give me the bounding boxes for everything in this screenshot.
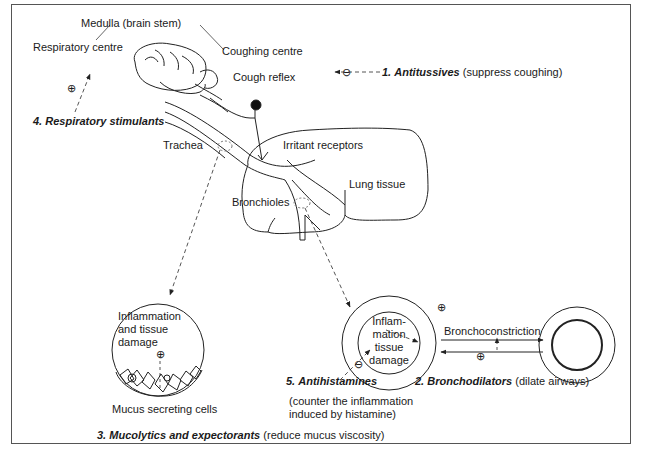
bronchioles-label: Bronchioles	[232, 196, 289, 209]
drug-number: 5.	[286, 375, 295, 387]
drug-respiratory-stimulants: 4. Respiratory stimulants	[33, 115, 164, 128]
irritant-receptors-label: Irritant receptors	[283, 139, 363, 152]
plus-sign-stimulants: ⊕	[67, 82, 76, 95]
drug-antitussives: 1. Antitussives (suppress coughing)	[382, 66, 562, 79]
drug-name: Respiratory stimulants	[45, 115, 164, 127]
drug-name: Antitussives	[394, 66, 459, 78]
drug-bronchodilators: 2. Bronchodilators (dilate airways)	[415, 375, 589, 388]
medulla-label: Medulla (brain stem)	[81, 17, 181, 30]
drug-number: 1.	[382, 66, 391, 78]
antihistamines-effect-line2: induced by histamine)	[289, 408, 396, 421]
minus-sign-antitussives: ⊖	[342, 66, 351, 79]
drug-antihistamines: 5. Antihistamines	[286, 375, 377, 388]
cough-reflex-label: Cough reflex	[233, 71, 295, 84]
dilated-airway-circle	[539, 307, 615, 383]
drug-number: 4.	[33, 115, 42, 127]
inflammation-right-line3: tissue	[367, 341, 411, 354]
drug-effect: (reduce mucus viscosity)	[263, 429, 384, 441]
drug-name: Antihistamines	[298, 375, 377, 387]
trachea-icon	[165, 102, 345, 240]
drug-effect: (suppress coughing)	[463, 66, 563, 78]
nerve-ending-icon	[251, 100, 261, 110]
cough-reflex-nerve	[210, 98, 268, 160]
minus-sign-antihistamines: ⊖	[354, 358, 363, 371]
respiratory-centre-label: Respiratory centre	[33, 41, 123, 54]
antihistamines-effect-line1: (counter the inflammation	[289, 395, 413, 408]
drug-mucolytics: 3. Mucolytics and expectorants (reduce m…	[97, 429, 384, 442]
plus-sign-bronchodilators: ⊕	[476, 350, 485, 363]
mucus-cells-label: Mucus secreting cells	[112, 403, 217, 416]
inflammation-left-line1: Inflammation	[118, 310, 181, 323]
inflammation-left-line2: and tissue	[118, 323, 168, 336]
plus-sign-mucus: ⊕	[156, 348, 165, 361]
inflammation-right-line1: Inflam-	[367, 315, 411, 328]
drug-effect: (dilate airways)	[515, 375, 589, 387]
coughing-centre-label: Coughing centre	[222, 45, 303, 58]
drug-name: Mucolytics and expectorants	[109, 429, 260, 441]
inflammation-right-line2: mation	[367, 328, 411, 341]
inflammation-left-line3: damage	[118, 336, 158, 349]
bronchoconstriction-label: Bronchoconstriction	[444, 325, 541, 338]
plus-sign-constriction: ⊕	[437, 301, 446, 314]
drug-number: 2.	[415, 375, 424, 387]
trachea-label: Trachea	[163, 139, 203, 152]
lung-tissue-label: Lung tissue	[349, 178, 405, 191]
inflammation-right-line4: damage	[367, 354, 411, 367]
drug-number: 3.	[97, 429, 106, 441]
drug-name: Bronchodilators	[427, 375, 512, 387]
